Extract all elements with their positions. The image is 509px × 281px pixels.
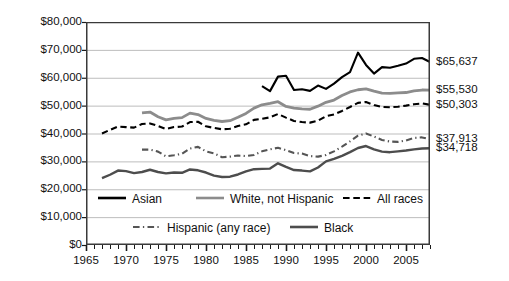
legend-label-asian: Asian <box>132 193 162 205</box>
legend-swatch <box>290 221 318 233</box>
chart-figure: 2008 dollars $0$10,000$20,000$30,000$40,… <box>0 0 509 281</box>
legend-label-white-not-hispanic: White, not Hispanic <box>230 193 333 205</box>
legend-label-black: Black <box>324 222 353 234</box>
legend-swatch <box>98 192 126 204</box>
legend-label-all-races: All races <box>377 193 423 205</box>
plot-area <box>86 22 430 245</box>
x-tick-label: 2005 <box>381 254 431 266</box>
legend-swatch <box>343 192 371 204</box>
legend-label-hispanic-any-race: Hispanic (any race) <box>167 222 270 234</box>
legend-swatch <box>133 221 161 233</box>
legend-swatch <box>196 192 224 204</box>
end-label-all-races: $50,303 <box>436 99 506 111</box>
end-label-black: $34,718 <box>436 142 506 154</box>
plot-frame <box>86 22 430 245</box>
end-label-asian: $65,637 <box>436 56 506 68</box>
end-label-white-not-hispanic: $55,530 <box>436 84 506 96</box>
